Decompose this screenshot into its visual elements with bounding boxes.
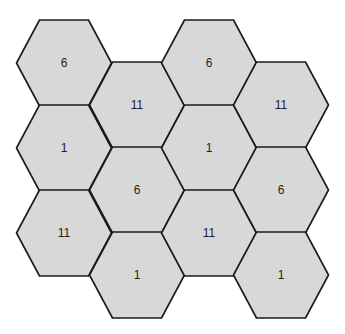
cell-label: 6 xyxy=(278,183,285,197)
cell-label: 6 xyxy=(206,56,213,70)
cell-label: 6 xyxy=(134,183,141,197)
cell-label: 6 xyxy=(61,56,68,70)
cell-label: 11 xyxy=(203,226,216,240)
cell-label: 1 xyxy=(61,141,68,155)
cell-label: 1 xyxy=(134,268,141,282)
cell-label: 11 xyxy=(131,98,144,112)
cell-label: 11 xyxy=(275,98,288,112)
cell-label: 1 xyxy=(278,268,285,282)
cell-label: 11 xyxy=(58,226,71,240)
hex-cell-diagram: 6111116161111161 xyxy=(0,0,345,334)
cell-label: 1 xyxy=(206,141,213,155)
